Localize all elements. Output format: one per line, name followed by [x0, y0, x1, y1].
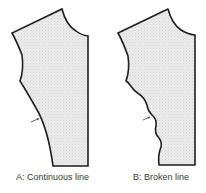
caption-broken-line: B: Broken line: [133, 172, 189, 182]
panel-a: [12, 9, 88, 166]
panel-b: [118, 9, 195, 165]
pattern-piece-continuous-outline: [12, 9, 88, 166]
pattern-figure: [0, 0, 206, 193]
pattern-piece-broken-outline: [118, 9, 195, 165]
caption-continuous-line: A: Continuous line: [16, 172, 89, 182]
arrow-icon: [143, 117, 151, 120]
arrow-icon: [31, 118, 40, 122]
